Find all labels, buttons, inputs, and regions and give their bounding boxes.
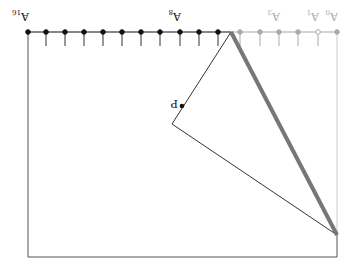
point-marker <box>26 30 31 35</box>
point-marker <box>296 30 301 35</box>
point-label: A3 <box>268 8 281 23</box>
point-marker <box>238 30 243 35</box>
thin-triangle-sides <box>172 32 337 235</box>
point-label: A1 <box>307 8 320 23</box>
triangle <box>172 32 337 235</box>
point-marker <box>120 30 125 35</box>
point-marker <box>277 30 282 35</box>
point-marker <box>63 30 68 35</box>
point-p-label: P <box>170 97 178 110</box>
point-label: A16 <box>12 8 30 23</box>
point-marker <box>178 30 183 35</box>
geometry-diagram: A16A8A3A1A0P <box>0 0 359 270</box>
point-marker <box>82 30 87 35</box>
point-label: A8 <box>169 8 182 23</box>
point-marker <box>216 30 221 35</box>
point-marker <box>158 30 163 35</box>
point-p-marker <box>180 104 185 109</box>
point-markers <box>26 30 340 109</box>
point-marker <box>316 30 321 35</box>
point-label: A0 <box>326 8 339 23</box>
point-marker <box>44 30 49 35</box>
point-marker <box>258 30 263 35</box>
point-marker <box>197 30 202 35</box>
point-marker <box>101 30 106 35</box>
point-labels: A16A8A3A1A0P <box>12 8 339 110</box>
point-marker <box>139 30 144 35</box>
thick-diagonal <box>231 32 337 235</box>
point-marker <box>335 30 340 35</box>
